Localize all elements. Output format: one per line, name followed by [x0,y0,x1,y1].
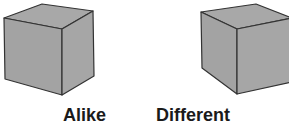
cube-alike [0,0,289,125]
cube-different-side-face [237,18,289,94]
label-alike: Alike [63,106,106,124]
label-different: Different [156,106,230,124]
cube-alike-front-face [4,18,62,95]
